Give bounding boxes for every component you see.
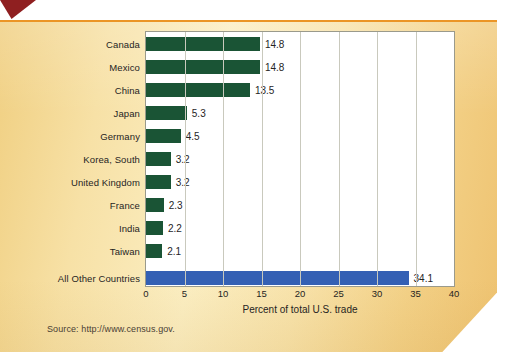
x-tick-label: 35 xyxy=(410,288,421,299)
gridline xyxy=(185,32,186,286)
category-label: France xyxy=(110,200,140,211)
value-label: 3.2 xyxy=(176,177,190,188)
bar xyxy=(146,175,171,189)
x-tick-label: 25 xyxy=(333,288,344,299)
category-label: United Kingdom xyxy=(71,177,140,188)
x-tick-label: 10 xyxy=(218,288,229,299)
bar xyxy=(146,60,260,74)
category-label: Canada xyxy=(106,38,140,49)
gridline xyxy=(416,32,417,286)
bar xyxy=(146,244,162,258)
category-label: Mexico xyxy=(109,61,140,72)
category-label: India xyxy=(119,223,140,234)
x-axis-title: Percent of total U.S. trade xyxy=(145,304,455,315)
category-label: Germany xyxy=(100,130,140,141)
category-label: Japan xyxy=(114,107,140,118)
bar xyxy=(146,106,187,120)
bar xyxy=(146,37,260,51)
x-tick-label: 0 xyxy=(143,288,148,299)
x-tick-label: 20 xyxy=(295,288,306,299)
bar xyxy=(146,129,181,143)
value-label: 4.5 xyxy=(186,130,200,141)
bar xyxy=(146,221,163,235)
x-tick-label: 40 xyxy=(449,288,460,299)
category-label: Korea, South xyxy=(83,154,140,165)
category-label: China xyxy=(115,84,140,95)
category-label: Taiwan xyxy=(110,246,140,257)
page-top-margin xyxy=(0,0,513,20)
gridline xyxy=(377,32,378,286)
value-label: 13.5 xyxy=(255,84,274,95)
bar-chart-plot-area: Canada14.8Mexico14.8China13.5Japan5.3Ger… xyxy=(145,31,455,287)
value-label: 2.2 xyxy=(168,223,182,234)
gridline xyxy=(339,32,340,286)
gridline xyxy=(223,32,224,286)
source-note: Source: http://www.census.gov. xyxy=(47,324,175,334)
value-label: 5.3 xyxy=(192,107,206,118)
value-label: 3.2 xyxy=(176,154,190,165)
x-tick-label: 5 xyxy=(182,288,187,299)
x-tick-label: 15 xyxy=(256,288,267,299)
gridline xyxy=(300,32,301,286)
bar xyxy=(146,152,171,166)
value-label: 14.8 xyxy=(265,38,284,49)
bar xyxy=(146,83,250,97)
value-label: 2.1 xyxy=(167,246,181,257)
gridline xyxy=(262,32,263,286)
x-tick-label: 30 xyxy=(372,288,383,299)
accent-rule xyxy=(0,20,497,22)
bar xyxy=(146,198,164,212)
figure-root: Canada14.8Mexico14.8China13.5Japan5.3Ger… xyxy=(0,0,513,352)
value-label: 2.3 xyxy=(169,200,183,211)
category-label: All Other Countries xyxy=(58,273,140,284)
value-label: 14.8 xyxy=(265,61,284,72)
